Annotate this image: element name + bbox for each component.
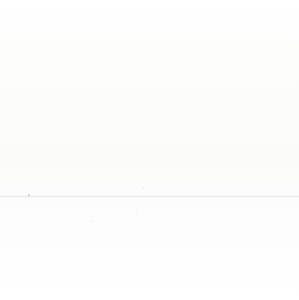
pie-label-love: Love	[97, 225, 118, 235]
pie-label-sadness: Sadness	[49, 147, 86, 157]
pie-chart: Fear Joy Surprise Love Sadness Anger	[0, 0, 299, 300]
pie-label-anger: Anger	[103, 70, 128, 80]
emotion-wheel-figure: Fear Joy Surprise Love Sadness Anger	[0, 0, 299, 300]
pie-label-surprise: Surprise	[180, 225, 215, 235]
pie-chart-svg: Fear Joy Surprise Love Sadness Anger	[0, 0, 299, 300]
pie-label-fear: Fear	[189, 70, 209, 80]
pie-label-joy: Joy	[223, 147, 238, 157]
